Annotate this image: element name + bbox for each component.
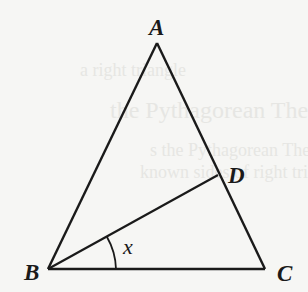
segment-ab [48, 43, 157, 269]
diagram-canvas: a right triangle the Pythagorean Theo s … [0, 0, 308, 292]
vertex-label-d: D [227, 163, 245, 188]
angle-label-x: x [122, 234, 133, 259]
vertex-label-b: B [23, 260, 39, 285]
segment-ac [157, 43, 265, 269]
angle-arc-x [107, 237, 116, 269]
triangle-diagram: A B C D x [0, 0, 308, 292]
segment-bd [48, 175, 218, 269]
vertex-label-c: C [277, 261, 293, 286]
vertex-label-a: A [147, 15, 164, 40]
